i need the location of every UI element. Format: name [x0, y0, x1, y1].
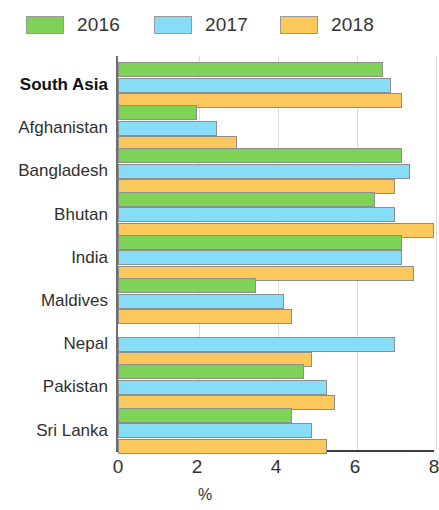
category-label-nepal: Nepal: [0, 335, 108, 352]
bar-2016-bhutan[interactable]: [118, 192, 375, 207]
x-tick-label-6: 6: [350, 456, 361, 478]
bar-2018-maldives[interactable]: [118, 309, 292, 324]
bar-2016-maldives[interactable]: [118, 278, 256, 293]
legend-label-2016: 2016: [77, 14, 120, 36]
category-label-pakistan: Pakistan: [0, 378, 108, 395]
bar-2016-afghanistan[interactable]: [118, 105, 197, 120]
category-label-bangladesh: Bangladesh: [0, 162, 108, 179]
bar-2016-south-asia[interactable]: [118, 62, 383, 77]
bars-area: [116, 56, 434, 452]
legend-swatch-2017-icon: [154, 16, 192, 34]
bar-2017-afghanistan[interactable]: [118, 121, 217, 136]
legend-swatch-2018-icon: [280, 16, 318, 34]
legend-swatch-2016-icon: [26, 16, 64, 34]
bar-2016-bangladesh[interactable]: [118, 148, 402, 163]
gridline-8: [436, 56, 437, 450]
x-axis-title: %: [0, 486, 434, 504]
x-tick-label-2: 2: [192, 456, 203, 478]
category-label-maldives: Maldives: [0, 292, 108, 309]
x-axis-title-text: %: [198, 486, 212, 503]
bar-2017-bangladesh[interactable]: [118, 164, 410, 179]
legend-item-2016[interactable]: 2016: [26, 10, 120, 40]
bar-2016-india[interactable]: [118, 235, 402, 250]
plot-area: South AsiaAfghanistanBangladeshBhutanInd…: [0, 56, 434, 458]
chart-legend: 2016 2017 2018: [0, 10, 434, 44]
legend-label-2017: 2017: [205, 14, 248, 36]
category-label-afghanistan: Afghanistan: [0, 119, 108, 136]
bar-2017-south-asia[interactable]: [118, 78, 391, 93]
category-label-south-asia: South Asia: [0, 76, 108, 93]
bar-2016-sri-lanka[interactable]: [118, 408, 292, 423]
bar-2017-nepal[interactable]: [118, 337, 395, 352]
bar-2017-maldives[interactable]: [118, 294, 284, 309]
bar-2017-bhutan[interactable]: [118, 207, 395, 222]
bar-2017-sri-lanka[interactable]: [118, 423, 312, 438]
category-axis: South AsiaAfghanistanBangladeshBhutanInd…: [0, 56, 116, 452]
x-tick-label-0: 0: [113, 456, 124, 478]
legend-item-2017[interactable]: 2017: [154, 10, 248, 40]
x-tick-label-8: 8: [429, 456, 439, 478]
bar-2017-india[interactable]: [118, 250, 402, 265]
x-tick-label-4: 4: [271, 456, 282, 478]
bar-2016-pakistan[interactable]: [118, 364, 304, 379]
legend-label-2018: 2018: [331, 14, 374, 36]
legend-item-2018[interactable]: 2018: [280, 10, 374, 40]
category-label-india: India: [0, 249, 108, 266]
bar-2017-pakistan[interactable]: [118, 380, 327, 395]
x-axis-ticks: 02468: [116, 456, 434, 482]
category-label-sri-lanka: Sri Lanka: [0, 422, 108, 439]
bar-2018-sri-lanka[interactable]: [118, 439, 327, 454]
category-label-bhutan: Bhutan: [0, 206, 108, 223]
